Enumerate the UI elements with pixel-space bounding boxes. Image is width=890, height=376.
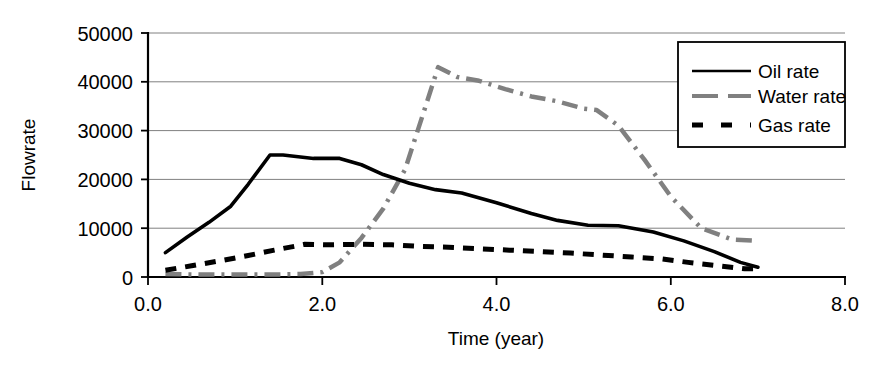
x-tick-label-1: 2.0 [308, 293, 336, 315]
y-tick-label-5: 0 [122, 267, 133, 289]
x-axis-ticks [148, 277, 845, 285]
x-tick-label-2: 4.0 [483, 293, 511, 315]
y-axis-title: Flowrate [18, 119, 39, 192]
chart-legend[interactable]: Oil rate Water rate Gas rate [678, 42, 846, 147]
x-tick-label-4: 8.0 [831, 293, 859, 315]
legend-label-water-rate: Water rate [758, 86, 846, 107]
chart-canvas: 50000 40000 30000 20000 10000 0 0.0 2.0 … [0, 0, 890, 376]
y-tick-label-3: 20000 [77, 169, 133, 191]
x-tick-labels: 0.0 2.0 4.0 6.0 8.0 [134, 293, 859, 315]
y-tick-labels: 50000 40000 30000 20000 10000 0 [77, 23, 133, 289]
y-tick-label-2: 30000 [77, 120, 133, 142]
x-axis-title: Time (year) [448, 328, 544, 349]
y-tick-label-1: 40000 [77, 71, 133, 93]
legend-label-gas-rate: Gas rate [758, 115, 831, 136]
x-tick-label-0: 0.0 [134, 293, 162, 315]
x-tick-label-3: 6.0 [657, 293, 685, 315]
legend-label-oil-rate: Oil rate [758, 61, 819, 82]
flowrate-vs-time-chart: 50000 40000 30000 20000 10000 0 0.0 2.0 … [0, 0, 890, 376]
y-tick-label-0: 50000 [77, 23, 133, 45]
y-tick-label-4: 10000 [77, 218, 133, 240]
